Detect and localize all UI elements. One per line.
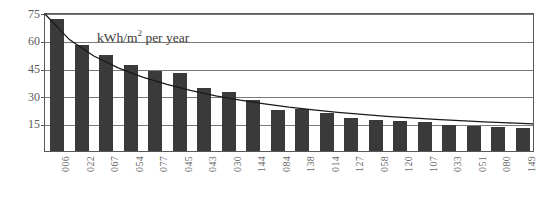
y-tick-label-75: 75 — [12, 7, 40, 22]
bar-120 — [393, 121, 407, 151]
bar-084 — [271, 110, 285, 151]
x-tick-label-043: 043 — [207, 156, 218, 172]
gridline-45 — [45, 70, 533, 71]
y-tick-mark-45 — [41, 70, 45, 71]
y-tick-label-60: 60 — [12, 34, 40, 49]
x-tick-label-138: 138 — [305, 156, 316, 172]
bar-033 — [442, 125, 456, 151]
x-tick-label-149: 149 — [526, 156, 537, 172]
bar-138 — [295, 109, 309, 151]
bar-077 — [148, 71, 162, 151]
x-tick-label-080: 080 — [501, 156, 512, 172]
bar-014 — [320, 113, 334, 151]
x-tick-label-014: 014 — [330, 156, 341, 172]
x-tick-label-127: 127 — [354, 156, 365, 172]
y-tick-label-15: 15 — [12, 117, 40, 132]
bar-058 — [369, 120, 383, 151]
bar-022 — [75, 45, 89, 151]
y-tick-mark-75 — [41, 14, 45, 15]
bar-080 — [491, 127, 505, 151]
bar-045 — [173, 73, 187, 151]
bar-144 — [246, 100, 260, 151]
x-tick-label-077: 077 — [158, 156, 169, 172]
y-tick-mark-60 — [41, 42, 45, 43]
gridline-75 — [45, 14, 533, 15]
y-tick-label-30: 30 — [12, 90, 40, 105]
x-tick-label-067: 067 — [109, 156, 120, 172]
x-tick-label-033: 033 — [452, 156, 463, 172]
bar-006 — [50, 19, 64, 151]
chart-title: kWh/m2 per year — [97, 28, 189, 46]
bar-127 — [344, 118, 358, 151]
plot-area: kWh/m2 per year — [44, 13, 534, 152]
x-tick-label-051: 051 — [477, 156, 488, 172]
bar-043 — [197, 88, 211, 151]
y-tick-label-45: 45 — [12, 62, 40, 77]
y-tick-mark-15 — [41, 125, 45, 126]
x-tick-label-058: 058 — [379, 156, 390, 172]
x-tick-label-054: 054 — [134, 156, 145, 172]
x-tick-label-144: 144 — [256, 156, 267, 172]
bar-067 — [99, 55, 113, 151]
bar-107 — [418, 122, 432, 151]
gridline-30 — [45, 97, 533, 98]
x-tick-label-022: 022 — [85, 156, 96, 172]
x-tick-label-030: 030 — [232, 156, 243, 172]
gridline-15 — [45, 125, 533, 126]
x-tick-label-006: 006 — [60, 156, 71, 172]
chart-screenshot: e l l i n e s e r f · 75 60 45 30 15 kWh… — [0, 0, 552, 208]
x-tick-label-084: 084 — [281, 156, 292, 172]
bar-149 — [516, 128, 530, 151]
bar-054 — [124, 65, 138, 151]
x-tick-label-107: 107 — [428, 156, 439, 172]
bar-051 — [467, 126, 481, 151]
x-tick-label-045: 045 — [183, 156, 194, 172]
y-tick-mark-30 — [41, 97, 45, 98]
bar-030 — [222, 92, 236, 151]
x-tick-label-120: 120 — [403, 156, 414, 172]
